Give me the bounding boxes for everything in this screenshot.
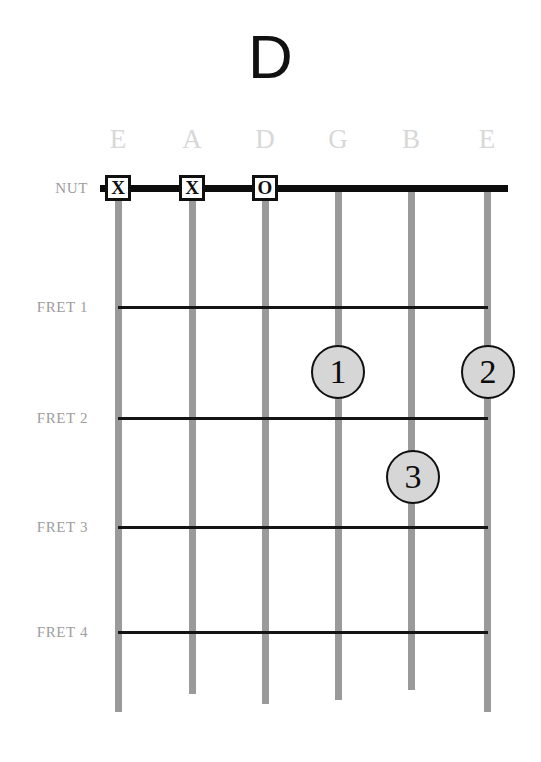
fret-row-label-3: FRET 3	[0, 519, 88, 535]
finger-dot-3: 3	[386, 450, 440, 504]
chord-name-title: D	[0, 26, 541, 88]
string-label-3: G	[318, 124, 358, 154]
chord-diagram: D E A D G B E NUT FRET 1 FRET 2 FRET 3 F…	[0, 0, 541, 762]
nut-row-label: NUT	[0, 180, 88, 196]
fret-line-4	[118, 631, 488, 634]
string-label-4: D	[245, 124, 285, 154]
finger-dot-2: 2	[461, 345, 515, 399]
fret-row-label-2: FRET 2	[0, 410, 88, 426]
fret-line-3	[118, 526, 488, 529]
nut-bar	[100, 185, 508, 192]
fret-row-label-4: FRET 4	[0, 624, 88, 640]
open-string-marker-4: O	[252, 175, 278, 201]
string-2	[408, 190, 415, 690]
string-5	[189, 190, 196, 694]
string-label-6: E	[98, 124, 138, 154]
string-4	[262, 190, 269, 704]
fret-row-label-1: FRET 1	[0, 299, 88, 315]
fret-line-1	[118, 306, 488, 309]
string-3	[335, 190, 342, 700]
muted-string-marker-5: X	[179, 175, 205, 201]
finger-dot-1: 1	[311, 345, 365, 399]
string-label-1: E	[467, 124, 507, 154]
string-label-2: B	[391, 124, 431, 154]
string-label-5: A	[172, 124, 212, 154]
muted-string-marker-6: X	[105, 175, 131, 201]
fret-line-2	[118, 417, 488, 420]
